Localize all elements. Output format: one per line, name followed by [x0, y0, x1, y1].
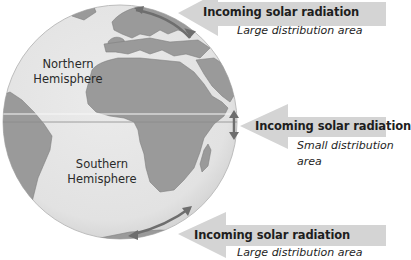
- radiation-label-middle: Incoming solar radiation: [255, 119, 411, 133]
- earth-globe: [0, 2, 237, 260]
- northern-hemisphere-line1: Northern: [28, 57, 108, 72]
- northern-hemisphere-label: Northern Hemisphere: [28, 57, 108, 87]
- distribution-label-middle-line2: area: [297, 155, 322, 168]
- distribution-label-bottom: Large distribution area: [237, 246, 363, 259]
- southern-hemisphere-line1: Southern: [62, 157, 142, 172]
- northern-hemisphere-line2: Hemisphere: [28, 72, 108, 87]
- radiation-label-top: Incoming solar radiation: [203, 5, 359, 19]
- southern-hemisphere-line2: Hemisphere: [62, 172, 142, 187]
- southern-hemisphere-label: Southern Hemisphere: [62, 157, 142, 187]
- distribution-label-middle-line1: Small distribution: [297, 139, 394, 152]
- radiation-label-bottom: Incoming solar radiation: [194, 228, 350, 242]
- distribution-label-top: Large distribution area: [237, 24, 363, 37]
